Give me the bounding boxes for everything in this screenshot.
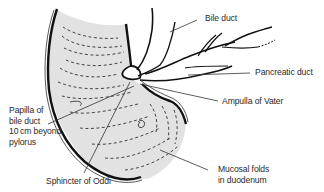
- label-papilla: Papilla of bile duct 10 cm beyond pyloru…: [9, 105, 61, 147]
- label-bile-duct: Bile duct: [205, 13, 237, 24]
- label-ampulla-of-vater: Ampulla of Vater: [222, 96, 283, 107]
- label-papilla-line1: Papilla of: [9, 105, 61, 116]
- label-mucosal-folds: Mucosal folds in duodenum: [218, 164, 269, 185]
- bile-duct-inner: [138, 22, 175, 76]
- label-papilla-line4: pylorus: [9, 137, 61, 148]
- pancreatic-duct-branch-4: [185, 66, 228, 68]
- label-mucosal-line2: in duodenum: [218, 175, 269, 186]
- label-papilla-line2: bile duct: [9, 116, 61, 127]
- leader-pancreatic-duct: [188, 73, 250, 75]
- label-sphincter-of-oddi: Sphincter of Oddi: [46, 176, 111, 187]
- pancreatic-duct-branch-tip: [258, 40, 275, 47]
- label-pancreatic-duct: Pancreatic duct: [255, 67, 313, 78]
- bile-duct: [137, 8, 153, 70]
- label-mucosal-line1: Mucosal folds: [218, 164, 269, 175]
- label-papilla-line3: 10 cm beyond: [9, 126, 61, 137]
- pancreatic-duct-branch-3: [222, 47, 258, 48]
- pancreatic-duct-branch-1b: [198, 35, 216, 56]
